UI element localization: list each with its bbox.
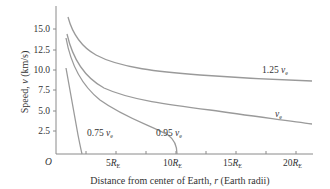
y-axis-title: Speed, v (km/s) [19,51,31,114]
origin-label: O [45,157,52,167]
curve-0-75-ve [66,68,82,154]
x-tick-label: 10RE [163,158,182,169]
x-axis-title: Distance from center of Earth, r (Earth … [90,175,269,187]
x-tick-label: 20RE [283,158,302,169]
x-tick-label: 5RE [106,158,121,169]
label-1-25-ve: 1.25 ve [262,65,288,76]
y-tick-label: 12.5 [33,45,50,55]
label-0-75-ve: 0.75 ve [87,128,113,139]
y-tick-labels: 15.0 12.5 10.0 7.5 5.0 2.5 [33,24,50,136]
y-tick-label: 10.0 [33,65,50,75]
x-tick-labels: 5RE 10RE 15RE 20RE [106,158,302,169]
y-tick-label: 2.5 [38,126,50,136]
label-0-95-ve: 0.95 ve [156,128,182,139]
y-tick-label: 15.0 [33,24,50,34]
chart: 15.0 12.5 10.0 7.5 5.0 2.5 O 5RE 10RE 15… [0,0,330,189]
y-tick-label: 7.5 [38,85,50,95]
label-ve: ve [275,109,282,120]
y-tick-label: 5.0 [38,106,50,116]
x-tick-label: 15RE [223,158,242,169]
